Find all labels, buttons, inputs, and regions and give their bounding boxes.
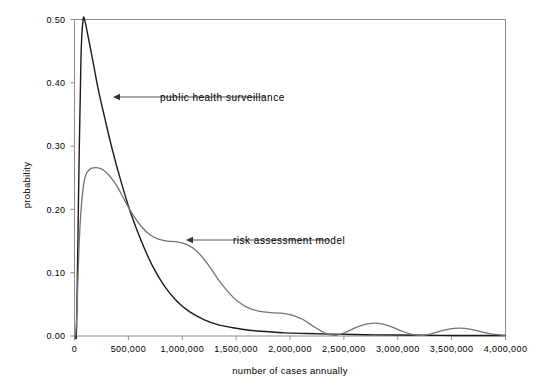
annotation-arrowhead-icon	[113, 94, 120, 100]
x-tick-label: 500,000	[111, 344, 146, 354]
annotation-label: public health surveillance	[160, 92, 285, 103]
x-tick-label: 1,500,000	[214, 344, 258, 354]
annotation-risk-assessment-model: risk assessment model	[186, 235, 345, 246]
x-axis-title: number of cases annually	[232, 365, 347, 376]
annotation-arrowhead-icon	[186, 237, 193, 243]
y-tick-label: 0.50	[46, 15, 65, 25]
annotation-public-health-surveillance: public health surveillance	[113, 92, 285, 103]
annotation-label: risk assessment model	[233, 235, 345, 246]
x-axis: 0500,0001,000,0001,500,0002,000,0002,500…	[72, 336, 528, 354]
x-tick-label: 0	[72, 344, 77, 354]
y-tick-label: 0.40	[46, 78, 65, 88]
x-tick-label: 4,000,000	[484, 344, 528, 354]
plot-frame	[75, 20, 506, 337]
y-tick-label: 0.00	[46, 331, 65, 341]
series-line-risk-assessment-model	[75, 168, 505, 336]
x-tick-label: 2,500,000	[322, 344, 366, 354]
series-line-public-health-surveillance	[75, 17, 505, 339]
x-tick-label: 1,000,000	[160, 344, 204, 354]
data-series-group	[75, 17, 505, 339]
y-axis-title: probability	[21, 162, 32, 209]
y-axis: 0.000.100.200.300.400.50	[46, 15, 74, 342]
annotation-group: public health surveillancerisk assessmen…	[113, 92, 345, 246]
probability-distribution-chart: 0.000.100.200.300.400.50 0500,0001,000,0…	[0, 0, 557, 389]
y-tick-label: 0.10	[46, 268, 65, 278]
y-tick-label: 0.30	[46, 141, 65, 151]
y-tick-label: 0.20	[46, 205, 65, 215]
x-tick-label: 3,500,000	[430, 344, 474, 354]
x-tick-label: 2,000,000	[268, 344, 312, 354]
chart-figure: 0.000.100.200.300.400.50 0500,0001,000,0…	[0, 0, 557, 389]
x-tick-label: 3,000,000	[376, 344, 420, 354]
